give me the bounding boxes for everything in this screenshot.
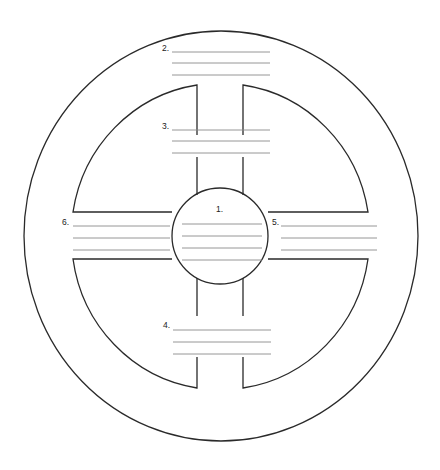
inner-quadrant-bottom-right	[243, 259, 368, 388]
inner-quadrant-top-right	[243, 85, 368, 212]
section-6-label: 6.	[62, 217, 69, 227]
section-3-label: 3.	[162, 121, 169, 131]
section-2-label: 2.	[162, 43, 169, 53]
section-1-label: 1.	[216, 204, 223, 214]
inner-quadrant-bottom-left	[73, 259, 197, 388]
section-4-label: 4.	[163, 320, 170, 330]
wheel-diagram: 2. 3. 1. 6. 5. 4.	[0, 0, 440, 470]
inner-quadrant-top-left	[73, 85, 197, 212]
section-5-label: 5.	[272, 217, 279, 227]
